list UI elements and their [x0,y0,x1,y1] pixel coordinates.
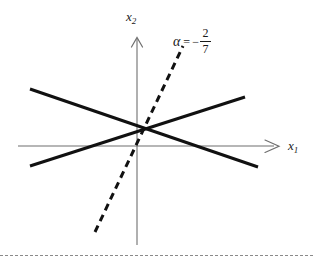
x-axis-label: x1 [288,139,298,152]
fraction: 2 7 [200,27,211,55]
line-dashed-alpha [95,46,183,232]
bottom-divider [0,255,313,256]
plot-canvas [0,0,313,261]
y-axis-label: x2 [126,10,136,23]
minus-sign: − [192,36,199,48]
alpha-symbol: α [173,35,180,49]
fraction-denominator: 7 [200,43,210,56]
x-axis [18,140,279,153]
alpha-annotation: α = − 2 7 [173,28,211,56]
equals-sign: = [183,36,190,48]
fraction-numerator: 2 [200,27,210,40]
